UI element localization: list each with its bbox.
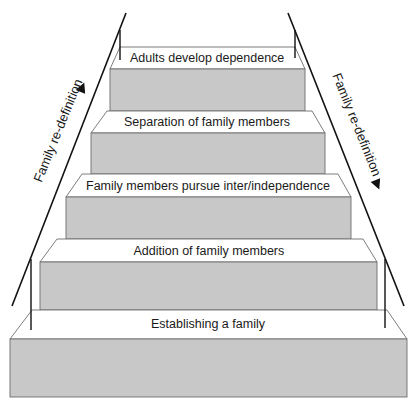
step-riser — [110, 69, 305, 111]
step-label-establishing-a-family: Establishing a family — [151, 318, 265, 331]
step-riser — [10, 339, 407, 397]
step-riser — [91, 133, 325, 174]
step-label-adults-develop-dependence: Adults develop dependence — [130, 52, 284, 65]
step-label-separation-of-family-members: Separation of family members — [124, 116, 290, 129]
step-riser — [40, 262, 377, 310]
arrow-down-icon — [371, 178, 384, 191]
step-label-family-members-pursue-inter-independence: Family members pursue inter/independence — [86, 180, 330, 193]
step-label-addition-of-family-members: Addition of family members — [134, 245, 285, 258]
step-riser — [66, 197, 351, 239]
